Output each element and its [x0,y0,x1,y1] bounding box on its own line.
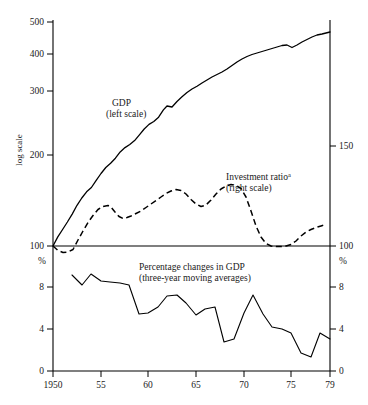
ytick-label-200: 200 [30,150,45,160]
annotation-investment-title: Investment ratioa [226,171,291,183]
xtick-label-70: 70 [239,380,249,390]
chart-svg: 500 400 300 200 100 log scale 150 100 GD… [0,0,368,405]
xtick-label-75: 75 [286,380,296,390]
chart-figure: 500 400 300 200 100 log scale 150 100 GD… [0,0,368,405]
series-pct-change-line [72,274,330,357]
annotation-gdp-sub: (left scale) [106,109,146,120]
percent-label-left: % [38,256,46,266]
xtick-label-60: 60 [143,380,153,390]
annotation-gdp-title: GDP [112,98,131,108]
ytick-label-4pct: 4 [39,324,44,334]
series-gdp-line [53,32,330,246]
annotation-investment-sub: (right scale) [226,183,272,194]
xtick-label-79: 79 [325,380,335,390]
xtick-label-1950: 1950 [44,380,63,390]
ytick-label-8pct: 8 [39,282,44,292]
percent-label-right: % [339,256,347,266]
ytick-label-0pct: 0 [39,366,44,376]
y2tick-label-4pct: 4 [339,324,344,334]
series-investment-ratio-line [53,185,326,253]
y2tick-label-150: 150 [339,141,354,151]
ytick-label-400: 400 [30,49,45,59]
y2tick-label-0pct: 0 [339,366,344,376]
y-axis-title-log-scale: log scale [14,134,24,166]
annotation-pct-title: Percentage changes in GDP [139,262,245,272]
annotation-pct-sub: (three-year moving averages) [139,273,251,284]
ytick-label-100: 100 [30,241,45,251]
y2tick-label-100: 100 [339,241,354,251]
xtick-label-65: 65 [191,380,201,390]
y2tick-label-8pct: 8 [339,282,344,292]
ytick-label-300: 300 [30,86,45,96]
ytick-label-500: 500 [30,17,45,27]
xtick-label-55: 55 [96,380,106,390]
